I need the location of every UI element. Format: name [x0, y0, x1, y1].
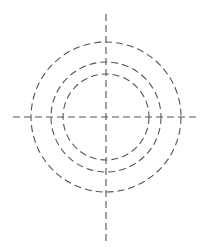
concentric-circles-diagram	[0, 0, 206, 250]
diagram-canvas	[0, 0, 206, 250]
